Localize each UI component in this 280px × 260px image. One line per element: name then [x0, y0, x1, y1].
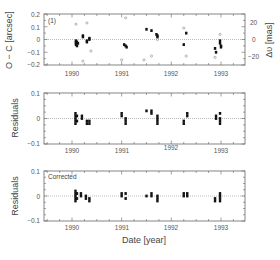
mid-xtick-1992: 1992: [164, 144, 179, 151]
middle-ylabel: Residuals: [10, 98, 20, 138]
bot-ytick-1: 0: [36, 193, 40, 200]
top-xtick-1990: 1990: [65, 70, 80, 77]
mid-ytick-2: −0.1: [27, 140, 40, 147]
mid-xtick-1990: 1990: [65, 147, 80, 154]
mid-xtick-labels: 1990 1991 1992 1993: [65, 144, 229, 154]
mid-ytick-0: 0.1: [31, 90, 40, 97]
bot-xtick-1992: 1992: [164, 224, 179, 231]
top-xtick-1991: 1991: [115, 70, 130, 77]
bot-xtick-1993: 1993: [214, 224, 229, 231]
top-xtick-1993: 1993: [214, 70, 229, 77]
bot-ytick-2: −0.1: [27, 217, 40, 224]
top-ytick-4: −0.2: [27, 61, 40, 68]
bottom-ylabel: Residuals: [10, 176, 20, 216]
bot-ytick-0: 0.1: [31, 168, 40, 175]
data-points: [74, 17, 222, 203]
top-right-ytick-0: 20: [250, 19, 258, 26]
top-ytick-0: 0.2: [31, 11, 40, 18]
mid-xtick-1993: 1993: [214, 147, 229, 154]
mid-ytick-1: 0: [36, 115, 40, 122]
bot-xtick-1990: 1990: [65, 224, 80, 231]
bottom-panel-note: Corrected: [48, 173, 77, 180]
top-ytick-2: 0: [36, 36, 40, 43]
bot-xtick-1991: 1991: [115, 224, 130, 231]
top-ylabel: O − C [arcsec]: [4, 11, 14, 69]
top-xtick-labels: 1990 1991 1992 1993: [65, 70, 229, 77]
top-ylabel-right: Δυ [mas]: [264, 22, 274, 57]
top-xtick-1992: 1992: [164, 70, 179, 77]
top-right-ytick-2: −20: [248, 53, 259, 60]
astrometry-residuals-chart: 0.2 0.1 0 −0.1 −0.2 20 0 −20 0.1 0 −0.1 …: [0, 0, 280, 260]
top-right-ytick-1: 0: [252, 36, 256, 43]
top-ytick-1: 0.1: [31, 24, 40, 31]
top-panel-note: (1): [48, 17, 56, 25]
top-ytick-3: −0.1: [27, 49, 40, 56]
bot-xtick-labels: 1990 1991 1992 1993: [65, 224, 229, 231]
mid-xtick-1991: 1991: [115, 147, 130, 154]
xlabel: Date [year]: [122, 235, 166, 245]
